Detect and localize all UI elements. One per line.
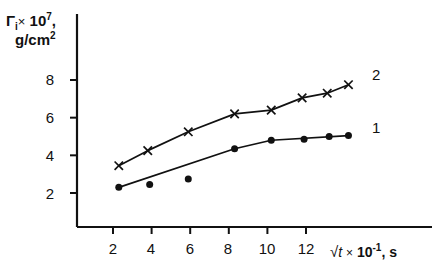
- curve-1-markers: [115, 132, 352, 191]
- curve-2-marker: [144, 146, 152, 154]
- figure-container: Γi× 107, g/cm2 8 6 4 2 2 4 6 8 10 12 √t …: [0, 0, 439, 270]
- curve-1-marker: [146, 181, 153, 188]
- curve-1-marker: [268, 137, 275, 144]
- curve-1-line: [119, 136, 349, 188]
- curve-2-marker: [115, 161, 123, 169]
- curve-1-marker: [115, 184, 122, 191]
- curve-1-marker: [185, 175, 192, 182]
- curve-1-marker: [345, 132, 352, 139]
- curve-1-path: [119, 136, 349, 188]
- plot-area: [0, 0, 439, 270]
- curve-2-markers: [115, 81, 353, 170]
- curve-1-marker: [326, 133, 333, 140]
- curve-1-marker: [231, 145, 238, 152]
- curve-2-path: [119, 85, 349, 166]
- curve-2-marker: [184, 128, 192, 136]
- curve-1-marker: [301, 136, 308, 143]
- curve-2-line: [119, 85, 349, 166]
- axes-group: [77, 14, 432, 227]
- curve-2-marker: [344, 81, 352, 89]
